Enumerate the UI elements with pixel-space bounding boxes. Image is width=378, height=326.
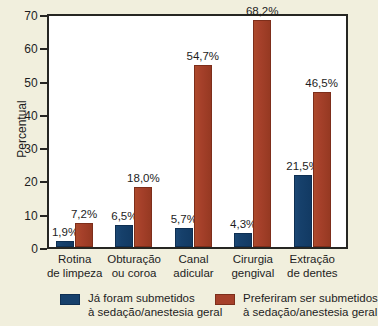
x-category-line: Rotina [47,252,103,266]
y-tick-label: 60 [24,42,38,56]
legend-item[interactable]: Preferiram ser submetidosà sedação/anest… [215,292,378,319]
x-category-label: Obturaçãoou coroa [107,252,161,280]
bars-container: 1,9%7,2%6,5%18,0%5,7%54,7%4,3%68,2%21,5%… [49,16,346,247]
legend-label-line1: Já foram submetidos [88,292,222,306]
y-tick-mark [40,181,47,183]
legend-swatch-red [215,294,235,305]
legend-label: Preferiram ser submetidosà sedação/anest… [243,292,378,319]
x-category-line: adicular [173,266,213,280]
x-category-line: de limpeza [47,266,103,280]
x-category-line: Obturação [107,252,161,266]
x-category-line: gengival [231,266,274,280]
bar-blue[interactable] [234,233,252,247]
bar-group: 1,9%7,2% [49,14,108,247]
y-tick-label: 0 [31,242,38,256]
bar-value-label: 68,2% [246,5,279,17]
y-tick-mark [40,15,47,17]
x-category-label: Cirurgiagengival [231,252,274,280]
x-category-line: Extração [287,252,338,266]
legend-label-line2: à sedação/anestesia geral [88,306,222,320]
bar-value-label: 18,0% [127,172,160,184]
bar-blue[interactable] [294,175,312,247]
bar-red[interactable] [253,20,271,247]
legend-label-line2: à sedação/anestesia geral [243,306,378,320]
y-tick-mark [40,248,47,250]
x-category-label: Rotinade limpeza [47,252,103,280]
y-tick-mark [40,215,47,217]
bar-red[interactable] [75,223,93,247]
y-axis-title: Percentual [15,74,29,184]
x-category-line: Canal [173,252,213,266]
x-category-label: Extraçãode dentes [287,252,338,280]
legend-item[interactable]: Já foram submetidosà sedação/anestesia g… [60,292,222,319]
x-category-label: Canaladicular [173,252,213,280]
bar-group: 4,3%68,2% [227,14,286,247]
legend-swatch-blue [60,294,80,305]
y-tick-mark [40,82,47,84]
bar-blue[interactable] [56,241,74,247]
bar-blue[interactable] [175,228,193,247]
y-tick-label: 10 [24,209,38,223]
legend-label: Já foram submetidosà sedação/anestesia g… [88,292,222,319]
bar-value-label: 46,5% [305,77,338,89]
bar-red[interactable] [313,92,331,247]
bar-group: 21,5%46,5% [287,14,346,247]
chart-legend: Já foram submetidosà sedação/anestesia g… [0,292,371,326]
y-tick-mark [40,48,47,50]
bar-group: 6,5%18,0% [108,14,167,247]
x-category-line: Cirurgia [231,252,274,266]
x-axis-categories: Rotinade limpezaObturaçãoou coroaCanalad… [47,252,348,286]
bar-red[interactable] [194,65,212,247]
bar-red[interactable] [134,187,152,247]
y-tick-mark [40,148,47,150]
plot-area: 1,9%7,2%6,5%18,0%5,7%54,7%4,3%68,2%21,5%… [47,14,348,249]
x-category-line: ou coroa [107,266,161,280]
x-category-line: de dentes [287,266,338,280]
y-tick-label: 70 [24,9,38,23]
bar-group: 5,7%54,7% [168,14,227,247]
y-tick-mark [40,115,47,117]
bar-blue[interactable] [115,225,133,247]
legend-label-line1: Preferiram ser submetidos [243,292,378,306]
bar-value-label: 7,2% [71,208,97,220]
bar-value-label: 54,7% [186,50,219,62]
